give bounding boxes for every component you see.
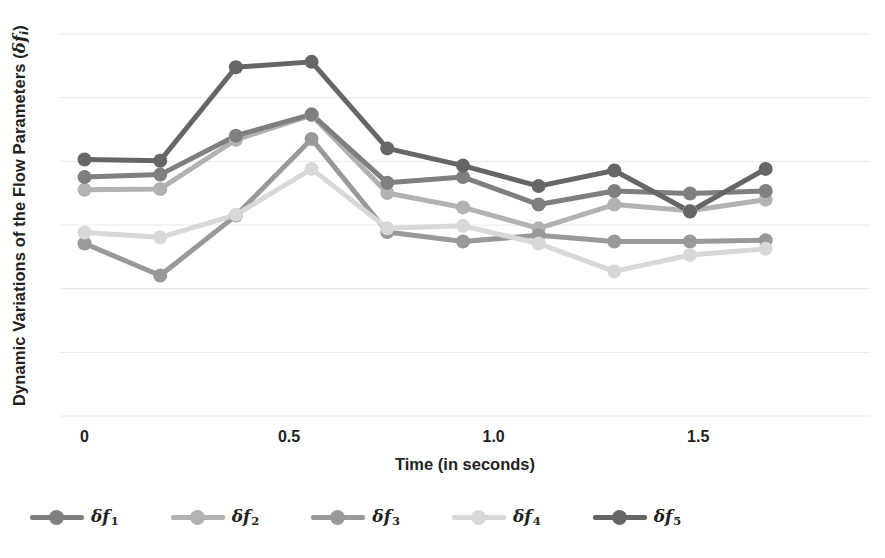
data-point: [759, 242, 773, 256]
data-point: [153, 268, 167, 282]
plot-area: [60, 18, 870, 428]
data-point: [305, 107, 319, 121]
data-point: [305, 132, 319, 146]
x-axis-ticks: 00.51.01.5: [60, 428, 870, 454]
legend-item-5[interactable]: δf5: [593, 506, 682, 528]
legend-marker-dot: [612, 510, 627, 525]
data-point: [153, 182, 167, 196]
legend-swatch-icon: [452, 509, 506, 525]
data-point: [229, 129, 243, 143]
x-tick-label: 1.0: [483, 428, 505, 446]
chart-legend: δf1δf2δf3δf4δf5: [30, 500, 860, 534]
data-point: [380, 141, 394, 155]
y-axis-title: Dynamic Variations of the Flow Parameter…: [0, 0, 40, 430]
data-point: [456, 219, 470, 233]
data-point: [532, 179, 546, 193]
data-point: [607, 234, 621, 248]
data-point: [153, 154, 167, 168]
legend-marker-dot: [49, 510, 64, 525]
data-point: [607, 164, 621, 178]
legend-item-2[interactable]: δf2: [171, 506, 260, 528]
legend-label: δf1: [91, 506, 119, 528]
data-point: [229, 208, 243, 222]
data-point: [532, 198, 546, 212]
legend-marker-dot: [330, 510, 345, 525]
y-axis-title-symbol: δf: [10, 34, 29, 52]
data-point: [759, 162, 773, 176]
x-tick-label: 0: [80, 428, 89, 446]
data-point: [683, 234, 697, 248]
x-tick-label: 0.5: [278, 428, 300, 446]
data-point: [78, 183, 92, 197]
chart-figure: Dynamic Variations of the Flow Parameter…: [0, 0, 885, 558]
series-line-5: [85, 62, 766, 212]
data-point: [683, 248, 697, 262]
data-point: [456, 234, 470, 248]
y-axis-title-main: Dynamic Variations of the Flow Parameter…: [10, 53, 28, 406]
data-point: [229, 60, 243, 74]
data-point: [456, 200, 470, 214]
legend-marker-dot: [190, 510, 205, 525]
legend-swatch-icon: [311, 509, 365, 525]
legend-item-1[interactable]: δf1: [30, 506, 119, 528]
data-point: [607, 184, 621, 198]
legend-swatch-icon: [593, 509, 647, 525]
series-markers: [78, 55, 773, 283]
y-axis-title-text: Dynamic Variations of the Flow Parameter…: [10, 25, 31, 406]
legend-item-3[interactable]: δf3: [311, 506, 400, 528]
data-point: [759, 184, 773, 198]
data-point: [153, 168, 167, 182]
legend-label: δf3: [372, 506, 400, 528]
data-point: [78, 152, 92, 166]
legend-marker-dot: [471, 510, 486, 525]
legend-label: δf4: [513, 506, 541, 528]
x-axis-title: Time (in seconds): [60, 455, 870, 474]
data-point: [607, 198, 621, 212]
series-lines: [85, 62, 766, 276]
y-axis-title-close: ): [10, 25, 28, 31]
data-point: [305, 162, 319, 176]
data-point: [153, 230, 167, 244]
data-point: [607, 264, 621, 278]
data-point: [78, 225, 92, 239]
data-point: [305, 55, 319, 69]
data-point: [456, 159, 470, 173]
data-point: [78, 170, 92, 184]
legend-swatch-icon: [30, 509, 84, 525]
data-point: [683, 186, 697, 200]
data-point: [380, 221, 394, 235]
legend-item-4[interactable]: δf4: [452, 506, 541, 528]
legend-label: δf5: [654, 506, 682, 528]
legend-swatch-icon: [171, 509, 225, 525]
x-tick-label: 1.5: [687, 428, 709, 446]
chart-svg: [60, 18, 870, 428]
legend-label: δf2: [232, 506, 260, 528]
series-line-2: [85, 115, 766, 228]
data-point: [683, 205, 697, 219]
data-point: [380, 176, 394, 190]
data-point: [532, 237, 546, 251]
